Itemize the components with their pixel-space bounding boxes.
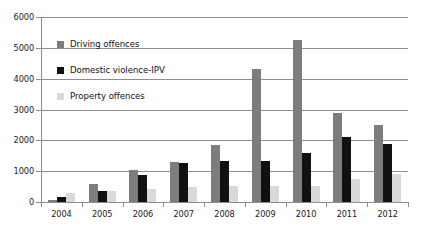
bar <box>129 170 138 202</box>
bar <box>374 125 383 202</box>
legend-swatch-icon <box>57 41 64 48</box>
bar <box>220 161 229 202</box>
legend-label: Driving offences <box>70 39 139 49</box>
bar <box>252 69 261 202</box>
y-axis-label: 4000 <box>0 74 34 84</box>
x-axis-tick <box>204 202 245 207</box>
bar <box>392 174 401 202</box>
bar <box>342 137 351 202</box>
bar <box>311 186 320 202</box>
bar <box>98 191 107 202</box>
x-axis-tick <box>123 202 164 207</box>
x-axis-label: 2011 <box>326 209 367 219</box>
x-axis-tick <box>41 202 82 207</box>
x-axis-ticks <box>41 202 408 207</box>
y-axis-label: 5000 <box>0 43 34 53</box>
legend-item: Property offences <box>57 86 165 106</box>
bar <box>333 113 342 202</box>
y-axis-label: 1000 <box>0 166 34 176</box>
x-axis-label: 2007 <box>163 209 204 219</box>
bar-group <box>163 17 204 202</box>
x-axis-tick <box>163 202 204 207</box>
x-axis-label: 2009 <box>245 209 286 219</box>
x-axis-label: 2005 <box>82 209 123 219</box>
x-axis-label: 2004 <box>41 209 82 219</box>
x-axis-tick <box>367 202 408 207</box>
bar-group <box>286 17 327 202</box>
legend-label: Domestic violence-IPV <box>70 65 165 75</box>
x-axis-label: 2008 <box>204 209 245 219</box>
bar-group <box>367 17 408 202</box>
x-axis-label: 2006 <box>123 209 164 219</box>
x-axis-tick <box>326 202 367 207</box>
legend-label: Property offences <box>70 91 145 101</box>
bar-chart: 0100020003000400050006000 20042005200620… <box>0 0 425 242</box>
legend-item: Domestic violence-IPV <box>57 60 165 80</box>
bar-group <box>326 17 367 202</box>
legend-swatch-icon <box>57 67 64 74</box>
bar <box>211 145 220 202</box>
bar <box>188 187 197 202</box>
bar <box>383 144 392 202</box>
y-axis-label: 3000 <box>0 105 34 115</box>
bar <box>138 175 147 202</box>
bar-group <box>204 17 245 202</box>
bar <box>270 186 279 202</box>
y-axis-label: 6000 <box>0 12 34 22</box>
x-axis-tick <box>286 202 327 207</box>
bar <box>179 163 188 202</box>
x-axis-tick <box>82 202 123 207</box>
bar <box>302 153 311 202</box>
bar <box>107 191 116 202</box>
bar <box>66 193 75 202</box>
x-axis-label: 2010 <box>286 209 327 219</box>
legend: Driving offencesDomestic violence-IPVPro… <box>57 34 165 112</box>
bar <box>229 186 238 202</box>
x-axis-labels: 200420052006200720082009201020112012 <box>41 209 408 219</box>
x-axis-tick <box>245 202 286 207</box>
legend-swatch-icon <box>57 93 64 100</box>
y-axis-label: 0 <box>0 197 34 207</box>
bar <box>351 179 360 202</box>
legend-item: Driving offences <box>57 34 165 54</box>
bar <box>89 184 98 202</box>
bar <box>261 161 270 202</box>
y-axis-label: 2000 <box>0 135 34 145</box>
bar-group <box>245 17 286 202</box>
bar <box>147 189 156 202</box>
bar <box>170 162 179 202</box>
x-axis-label: 2012 <box>367 209 408 219</box>
bar <box>293 40 302 202</box>
